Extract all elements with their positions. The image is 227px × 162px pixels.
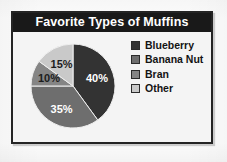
pie-slices <box>31 44 115 128</box>
pie-slice-label: 40% <box>86 72 108 84</box>
legend-item[interactable]: Other <box>131 82 209 96</box>
chart-title: Favorite Types of Muffins <box>13 13 211 32</box>
legend-swatch-icon <box>131 55 140 64</box>
pie-slice-label: 10% <box>38 72 60 84</box>
pie-chart: 40%35%10%15% <box>19 32 127 140</box>
chart-body: 40%35%10%15% BlueberryBanana NutBranOthe… <box>13 32 211 142</box>
legend-swatch-icon <box>131 41 140 50</box>
chart-frame: Favorite Types of Muffins 40%35%10%15% B… <box>11 11 213 144</box>
pie-slice-label: 15% <box>51 58 73 70</box>
pie-slice-label: 35% <box>51 103 73 115</box>
legend-item-label: Other <box>145 83 173 94</box>
legend-swatch-icon <box>131 84 140 93</box>
legend: BlueberryBanana NutBranOther <box>131 38 209 96</box>
legend-item-label: Blueberry <box>145 40 194 51</box>
chart-title-bar: Favorite Types of Muffins <box>13 13 211 32</box>
legend-item-label: Banana Nut <box>145 54 203 65</box>
legend-item[interactable]: Banana Nut <box>131 53 209 67</box>
page-canvas: Favorite Types of Muffins 40%35%10%15% B… <box>0 0 227 162</box>
legend-item-label: Bran <box>145 69 169 80</box>
legend-item[interactable]: Blueberry <box>131 38 209 52</box>
legend-item[interactable]: Bran <box>131 67 209 81</box>
pie-chart-svg: 40%35%10%15% <box>19 32 127 140</box>
legend-swatch-icon <box>131 70 140 79</box>
